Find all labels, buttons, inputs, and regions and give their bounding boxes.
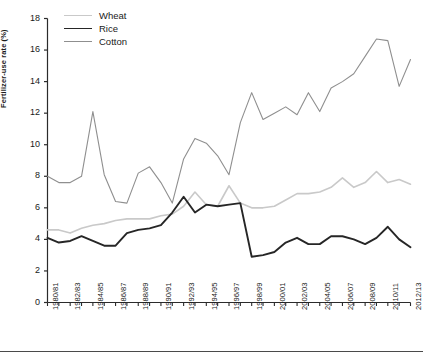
legend-swatch-wheat: [64, 15, 92, 16]
y-axis-tick-label: 14: [14, 77, 40, 86]
y-axis-tick-label: 4: [14, 234, 40, 243]
x-axis-tick-label: 1984/85: [96, 282, 105, 309]
x-axis-tick-label: 1992/93: [187, 282, 196, 309]
series-line-cotton: [48, 39, 411, 203]
legend-swatch-rice: [64, 28, 92, 29]
x-axis-tick-label: 1996/97: [232, 282, 241, 309]
y-axis-tick-label: 0: [14, 298, 40, 307]
legend-item-cotton: Cotton: [64, 35, 127, 48]
legend-item-wheat: Wheat: [64, 9, 127, 22]
legend-label-wheat: Wheat: [99, 11, 126, 21]
x-axis-tick-label: 1980/81: [51, 282, 60, 309]
legend-label-cotton: Cotton: [99, 37, 127, 47]
y-axis-tick-label: 2: [14, 266, 40, 275]
legend-label-rice: Rice: [99, 24, 118, 34]
x-axis-tick-label: 2000/01: [278, 282, 287, 309]
x-axis-tick-label: 1998/99: [255, 282, 264, 309]
series-line-rice: [48, 197, 411, 257]
x-axis-tick-label: 2008/09: [368, 282, 377, 309]
series-line-wheat: [48, 172, 411, 234]
x-axis-tick-label: 2010/11: [391, 283, 400, 310]
x-axis-tick-label: 2006/07: [346, 282, 355, 309]
fertilizer-use-rate-chart: Fertilizer-use rate (%) 024681012141618 …: [0, 0, 423, 363]
x-axis-tick-label: 2012/13: [414, 282, 423, 309]
y-axis-title: Fertilizer-use rate (%): [0, 0, 8, 108]
y-axis-tick-label: 18: [14, 14, 40, 23]
x-axis-tick-label: 1990/91: [164, 282, 173, 309]
y-axis-tick-label: 12: [14, 108, 40, 117]
x-axis-tick-label: 1988/89: [141, 282, 150, 309]
x-axis-tick-label: 1986/87: [119, 282, 128, 309]
x-axis-tick-label: 1982/83: [73, 282, 82, 309]
x-axis-tick-label: 1994/95: [210, 282, 219, 309]
y-axis-tick-label: 8: [14, 171, 40, 180]
y-axis-tick-label: 6: [14, 203, 40, 212]
legend-item-rice: Rice: [64, 22, 127, 35]
footer-divider: [0, 351, 423, 352]
legend-swatch-cotton: [64, 41, 92, 42]
y-axis-tick-label: 10: [14, 140, 40, 149]
chart-legend: Wheat Rice Cotton: [64, 9, 127, 48]
y-axis-tick-label: 16: [14, 45, 40, 54]
x-axis-tick-label: 2004/05: [323, 282, 332, 309]
x-axis-tick-label: 2002/03: [300, 282, 309, 309]
